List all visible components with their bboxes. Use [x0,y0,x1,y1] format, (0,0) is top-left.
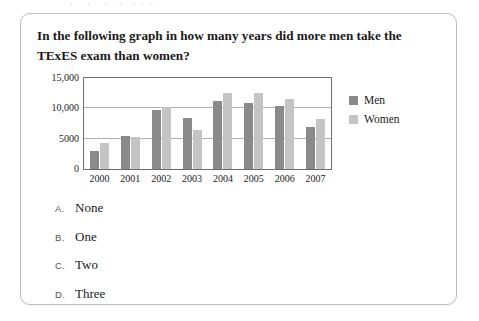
bar-men-2002 [152,110,161,169]
x-tick-label: 2002 [146,173,176,184]
bar-women-2005 [254,93,263,169]
option-b[interactable]: B.One [55,229,435,245]
chart-legend: MenWomen [349,94,399,132]
y-tick-label: 0 [74,163,79,174]
bar-group [306,78,325,169]
bar-women-2001 [131,137,140,169]
option-letter: D. [55,289,75,300]
option-text: Two [75,257,98,273]
legend-item-women: Women [349,113,399,125]
option-c[interactable]: C.Two [55,257,435,273]
y-axis: 0500010,00015,000 [31,72,79,175]
bar-men-2000 [90,151,99,169]
x-tick-label: 2006 [270,173,300,184]
bar-chart: 0500010,00015,000 2000200120022003200420… [31,72,446,192]
question-card: In the following graph in how many years… [20,13,457,305]
x-axis-labels: 20002001200220032004200520062007 [84,173,331,184]
y-tick-label: 5000 [59,133,79,144]
bar-group [213,78,232,169]
bar-women-2007 [316,119,325,169]
option-text: None [75,200,103,216]
cut-off-text-above-card: . . . . . . . [70,0,370,6]
legend-item-men: Men [349,94,399,106]
bar-women-2003 [193,130,202,169]
y-tick-label: 15,000 [52,72,80,83]
bar-group [121,78,140,169]
x-tick-label: 2007 [301,173,331,184]
bar-group [275,78,294,169]
option-letter: B. [55,232,75,243]
bar-women-2004 [223,93,232,169]
bar-women-2002 [162,107,171,169]
bar-men-2003 [183,118,192,169]
answer-options: A.NoneB.OneC.TwoD.Three [55,200,435,314]
bar-men-2007 [306,127,315,169]
x-tick-label: 2004 [208,173,238,184]
option-a[interactable]: A.None [55,200,435,216]
option-text: Three [75,286,105,302]
option-d[interactable]: D.Three [55,286,435,302]
x-tick-label: 2005 [239,173,269,184]
option-letter: C. [55,260,75,271]
bar-group [244,78,263,169]
bar-men-2005 [244,103,253,169]
bar-men-2006 [275,106,284,169]
bar-men-2001 [121,136,130,169]
bar-women-2000 [100,143,109,169]
bar-group [90,78,109,169]
legend-swatch-icon [349,115,358,124]
x-tick-label: 2001 [115,173,145,184]
question-text: In the following graph in how many years… [37,26,437,67]
option-letter: A. [55,203,75,214]
y-tick-label: 10,000 [52,102,80,113]
x-tick-label: 2003 [177,173,207,184]
legend-label: Men [364,94,385,106]
bar-group [152,78,171,169]
legend-label: Women [364,113,399,125]
bar-group [183,78,202,169]
bar-groups [84,78,331,169]
bar-women-2006 [285,99,294,169]
bar-men-2004 [213,101,222,169]
x-tick-label: 2000 [84,173,114,184]
legend-swatch-icon [349,96,358,105]
option-text: One [75,229,97,245]
